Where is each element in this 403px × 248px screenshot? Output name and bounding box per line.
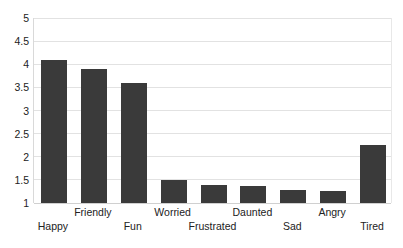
gridline [34,18,391,19]
x-axis-category-label: Frustrated [189,221,237,232]
x-axis-category-label: Daunted [233,207,273,218]
x-axis-category-label: Friendly [74,207,111,218]
plot-area [33,18,392,203]
y-axis-tick-label: 1.5 [1,175,29,186]
bar [81,69,107,203]
bar-chart: 54.543.532.521.51 HappyFriendlyFunWorrie… [0,0,403,248]
y-axis-tick-label: 3.5 [1,82,29,93]
bar [201,185,227,204]
x-axis-category-label: Angry [318,207,345,218]
y-axis-tick-label: 3 [1,106,29,117]
gridline [34,41,391,42]
x-axis-category-label: Sad [283,221,302,232]
bar [320,191,346,203]
y-axis-tick-label: 1 [1,198,29,209]
x-axis-category-label: Tired [360,221,384,232]
y-axis-tick-label: 2 [1,152,29,163]
y-axis-tick-label: 4 [1,59,29,70]
y-axis-tick-label: 5 [1,13,29,24]
x-axis-category-label: Happy [38,221,68,232]
x-axis-category-label: Worried [154,207,191,218]
bar [121,83,147,203]
y-axis-tick-label: 4.5 [1,36,29,47]
bar [280,190,306,203]
gridline [34,64,391,65]
y-axis-tick-label: 2.5 [1,129,29,140]
x-axis-category-label: Fun [124,221,142,232]
bar [41,60,67,203]
bar [240,186,266,203]
bar [360,145,386,203]
bar [161,180,187,203]
